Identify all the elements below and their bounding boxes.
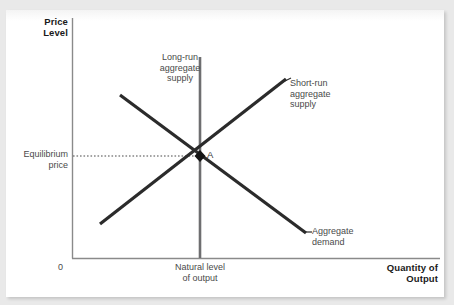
x-axis-label-line1: Quantity of xyxy=(330,262,438,273)
ad-label-line1: Aggregate xyxy=(312,226,392,237)
ad-as-diagram-plot xyxy=(0,0,454,305)
sras-curve-label: Short-run aggregate supply xyxy=(290,78,366,110)
natural-level-line2: of output xyxy=(152,273,248,284)
lras-label-line3: supply xyxy=(142,73,218,84)
ad-curve-label: Aggregate demand xyxy=(312,226,392,247)
y-axis-label-line2: Level xyxy=(6,27,68,38)
ad-curve xyxy=(120,95,306,233)
x-axis-label-line2: Output xyxy=(330,273,438,284)
equilibrium-price-line2: price xyxy=(2,160,68,171)
ad-label-line2: demand xyxy=(312,237,392,248)
lras-label-line1: Long-run xyxy=(142,52,218,63)
origin-label: 0 xyxy=(58,262,63,273)
sras-label-line2: aggregate xyxy=(290,89,366,100)
lras-curve-label: Long-run aggregate supply xyxy=(142,52,218,84)
sras-label-line3: supply xyxy=(290,99,366,110)
figure-root: Price Level Quantity of Output Equilibri… xyxy=(0,0,454,305)
equilibrium-price-tick-label: Equilibrium price xyxy=(2,149,68,170)
natural-level-tick-label: Natural level of output xyxy=(152,262,248,283)
sras-label-line1: Short-run xyxy=(290,78,366,89)
equilibrium-point-label: A xyxy=(207,149,213,160)
lras-label-line2: aggregate xyxy=(142,63,218,74)
y-axis-label: Price Level xyxy=(6,16,68,38)
x-axis-label: Quantity of Output xyxy=(330,262,438,284)
equilibrium-price-line1: Equilibrium xyxy=(2,149,68,160)
y-axis-label-line1: Price xyxy=(6,16,68,27)
natural-level-line1: Natural level xyxy=(152,262,248,273)
